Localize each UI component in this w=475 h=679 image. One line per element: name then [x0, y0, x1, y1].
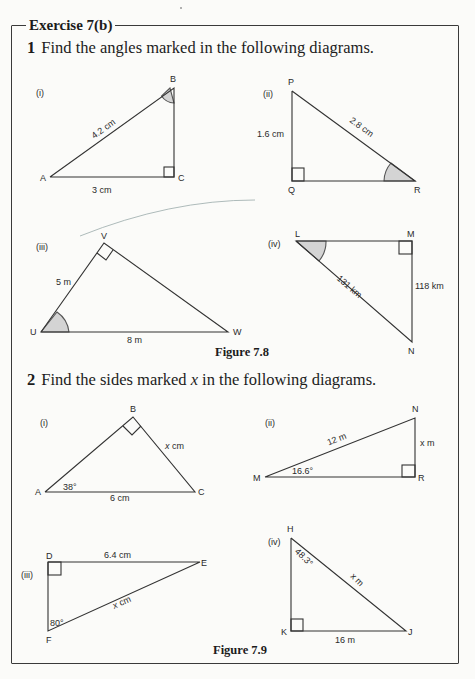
svg-text:A: A [40, 173, 46, 183]
q1-triangle-i [50, 88, 174, 177]
svg-text:V: V [101, 231, 107, 241]
svg-text:C: C [178, 173, 185, 183]
svg-text:(i): (i) [36, 88, 44, 98]
svg-text:48.3°: 48.3° [293, 546, 315, 568]
svg-text:6.4 cm: 6.4 cm [104, 550, 131, 560]
svg-text:x cm: x cm [164, 441, 184, 451]
svg-text:J: J [408, 627, 413, 637]
svg-text:8 m: 8 m [127, 335, 142, 345]
svg-text:(iii): (iii) [36, 242, 48, 252]
svg-text:x cm: x cm [110, 594, 132, 611]
svg-text:M: M [253, 473, 261, 483]
svg-text:4.2 cm: 4.2 cm [90, 117, 118, 141]
svg-text:E: E [201, 558, 207, 568]
svg-text:A: A [35, 487, 41, 497]
svg-text:N: N [412, 404, 419, 414]
svg-text:80°: 80° [50, 618, 64, 628]
svg-text:L: L [295, 229, 300, 239]
q2-triangle-iv [291, 538, 406, 631]
svg-text:B: B [130, 404, 136, 414]
q1-triangle-iii [41, 243, 228, 332]
svg-text:D: D [46, 551, 53, 561]
svg-text:(iii): (iii) [21, 570, 33, 580]
svg-text:P: P [288, 77, 294, 87]
q2-triangle-i [45, 417, 195, 492]
svg-text:R: R [418, 473, 425, 483]
svg-text:F: F [46, 635, 52, 645]
svg-text:C: C [198, 487, 205, 497]
svg-text:(iv): (iv) [268, 239, 281, 249]
svg-text:x m: x m [420, 438, 435, 448]
svg-text:B: B [170, 74, 176, 84]
svg-text:118 km: 118 km [415, 281, 444, 291]
svg-text:5 m: 5 m [56, 277, 71, 287]
svg-text:R: R [414, 185, 421, 195]
svg-text:1.6 cm: 1.6 cm [257, 129, 284, 139]
svg-text:16 m: 16 m [335, 635, 355, 645]
svg-text:131 km: 131 km [335, 273, 364, 300]
svg-text:(iv): (iv) [268, 537, 281, 547]
svg-text:x m: x m [348, 571, 365, 588]
svg-text:M: M [407, 229, 415, 239]
svg-text:W: W [233, 327, 242, 337]
svg-text:(ii): (ii) [263, 89, 273, 99]
diagrams-canvas: (i) BAC 3 cm 4.2 cm (ii) PQR 1.6 cm 2.8 … [0, 0, 475, 679]
svg-text:N: N [408, 346, 415, 356]
svg-text:(ii): (ii) [265, 418, 275, 428]
svg-text:3 cm: 3 cm [92, 185, 112, 195]
svg-text:12 m: 12 m [326, 431, 348, 448]
svg-text:H: H [287, 524, 294, 534]
svg-text:K: K [281, 627, 287, 637]
svg-text:(i): (i) [40, 418, 48, 428]
svg-text:16.6°: 16.6° [292, 466, 314, 476]
q2-triangle-ii [265, 418, 415, 477]
svg-text:U: U [30, 327, 37, 337]
svg-text:Q: Q [288, 185, 295, 195]
svg-text:6 cm: 6 cm [110, 493, 130, 503]
svg-text:38°: 38° [63, 482, 77, 492]
q1-triangle-ii [292, 91, 415, 181]
